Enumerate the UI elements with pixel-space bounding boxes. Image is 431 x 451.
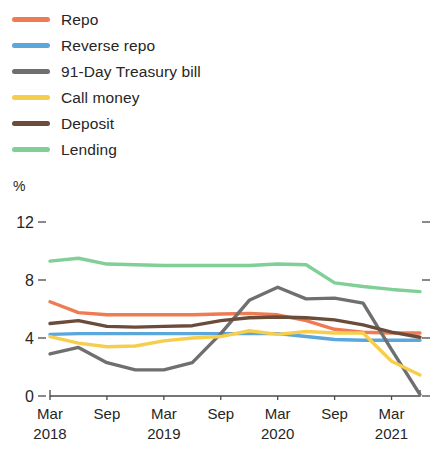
y-tick-label: 0	[25, 388, 34, 405]
plot-svg: 04812 Mar2018SepMar2019SepMar2020SepMar2…	[0, 0, 431, 451]
x-tick-label-year: 2021	[375, 425, 408, 442]
x-axis-labels: Mar2018SepMar2019SepMar2020SepMar2021	[33, 405, 408, 442]
x-axis-baseline	[50, 390, 420, 396]
y-tick-label: 4	[25, 330, 34, 347]
x-tick-label-month: Mar	[151, 405, 177, 422]
series-line-call-money	[50, 331, 420, 375]
interest-rates-line-chart: Repo Reverse repo 91-Day Treasury bill C…	[0, 0, 431, 451]
series-line-lending	[50, 258, 420, 291]
y-tick-label: 12	[16, 214, 34, 231]
x-tick-label-month: Mar	[37, 405, 63, 422]
x-tick-label-month: Sep	[94, 405, 121, 422]
x-tick-label-month: Sep	[321, 405, 348, 422]
x-tick-label-year: 2019	[147, 425, 180, 442]
plot-area: 04812 Mar2018SepMar2019SepMar2020SepMar2…	[0, 0, 431, 451]
x-tick-label-month: Sep	[207, 405, 234, 422]
x-tick-label-year: 2020	[261, 425, 294, 442]
y-tick-label: 8	[25, 272, 34, 289]
series-lines	[50, 258, 420, 394]
x-tick-label-month: Mar	[379, 405, 405, 422]
x-tick-label-year: 2018	[33, 425, 66, 442]
axis-lines	[50, 390, 420, 396]
x-tick-label-month: Mar	[265, 405, 291, 422]
